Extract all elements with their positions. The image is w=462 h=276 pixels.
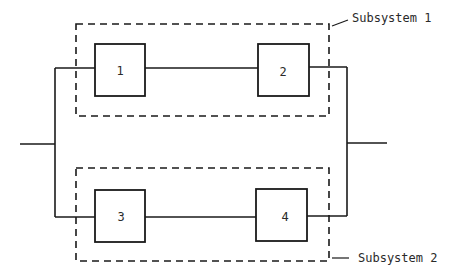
block-4-label: 4 — [281, 210, 288, 224]
block-3: 3 — [95, 190, 145, 242]
block-2: 2 — [258, 44, 309, 96]
subsystem-1-leader — [332, 20, 348, 26]
reliability-block-diagram: 1 2 3 4 Subsystem 1 Subsystem 2 — [0, 0, 462, 276]
block-4: 4 — [256, 189, 307, 241]
block-3-label: 3 — [117, 210, 124, 224]
subsystem-1-label: Subsystem 1 — [352, 11, 431, 25]
subsystem-2-label: Subsystem 2 — [358, 251, 437, 265]
block-1-label: 1 — [116, 64, 123, 78]
block-2-label: 2 — [279, 65, 286, 79]
block-1: 1 — [95, 44, 145, 96]
